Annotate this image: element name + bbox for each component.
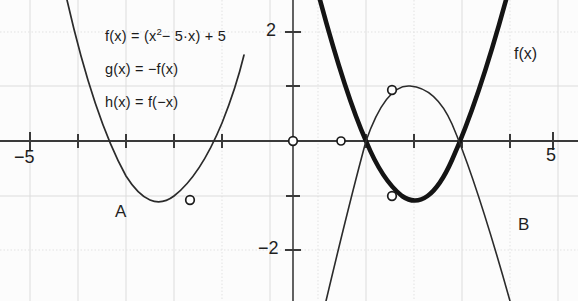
curve-fx-path (320, 0, 506, 201)
x-axis-label-min: −5 (14, 147, 35, 168)
y-axis-label-max: 2 (266, 20, 276, 41)
equation-f: f(x) = (x2− 5·x) + 5 (105, 28, 226, 44)
equation-f-lhs: f(x) (105, 28, 127, 44)
equation-g: g(x) = −f(x) (105, 61, 178, 77)
equation-f-body-a: (x (144, 28, 156, 44)
equation-f-equals: = (131, 28, 140, 44)
equation-f-body-b: − 5·x) + 5 (162, 28, 226, 44)
equation-h: h(x) = f(−x) (105, 94, 178, 110)
marker-x1-icon[interactable] (337, 137, 345, 145)
marker-f-lower-icon[interactable] (388, 192, 397, 201)
coordinate-plot (0, 0, 578, 301)
graph-figure: f(x) = (x2− 5·x) + 5 g(x) = −f(x) h(x) =… (0, 0, 578, 301)
curve-label-a: A (115, 202, 126, 222)
curve-label-fx: f(x) (514, 45, 537, 63)
marker-origin-icon[interactable] (289, 137, 298, 146)
y-axis (285, 0, 301, 301)
x-axis-label-max: 5 (546, 145, 556, 166)
marker-a-icon[interactable] (186, 196, 195, 205)
curve-label-b: B (518, 215, 529, 235)
curve-b-path (326, 86, 510, 301)
marker-b-upper-icon[interactable] (388, 86, 397, 95)
y-axis-label-min: −2 (258, 238, 279, 259)
